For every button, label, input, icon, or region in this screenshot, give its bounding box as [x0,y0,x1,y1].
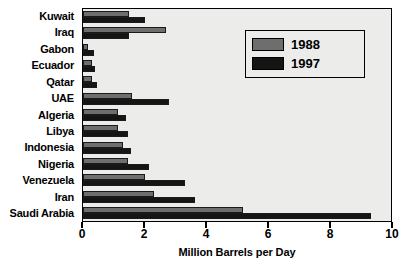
category-label: Gabon [0,41,78,57]
category-label: Venezuela [0,173,78,189]
category-label: Iran [0,189,78,205]
category-label: Indonesia [0,140,78,156]
category-label: Nigeria [0,156,78,172]
bar-1997 [83,99,169,105]
bar-group [83,123,391,139]
chart-legend: 1988 1997 [245,30,365,78]
category-label: Kuwait [0,8,78,24]
category-axis: KuwaitIraqGabonEcuadorQatarUAEAlgeriaLib… [0,8,78,222]
bar-1997 [83,66,95,72]
x-tick-label: 6 [265,228,272,240]
bar-1997 [83,164,149,170]
legend-label-1997: 1997 [291,57,320,70]
x-tick-label: 2 [141,228,148,240]
legend-item-1997: 1997 [252,57,358,70]
bar-1997 [83,50,94,56]
bar-group [83,140,391,156]
x-tick-label: 10 [385,228,398,240]
x-tick-label: 4 [203,228,210,240]
bar-group [83,205,391,221]
x-axis-title: Million Barrels per Day [82,246,392,258]
category-label: Iraq [0,24,78,40]
bar-group [83,9,391,25]
category-label: UAE [0,90,78,106]
bar-1997 [83,148,131,154]
bar-1997 [83,197,195,203]
bar-1997 [83,82,97,88]
bar-group [83,156,391,172]
category-label: Qatar [0,74,78,90]
category-label: Ecuador [0,57,78,73]
x-tick-label: 0 [79,228,86,240]
bar-1997 [83,131,128,137]
bar-1997 [83,213,371,219]
legend-item-1988: 1988 [252,38,358,51]
bar-1997 [83,115,126,121]
category-label: Saudi Arabia [0,206,78,222]
legend-label-1988: 1988 [291,38,320,51]
bar-group [83,172,391,188]
x-axis-tick-labels: 0246810 [82,228,392,244]
x-tick-label: 8 [327,228,334,240]
bar-group [83,188,391,204]
bar-1997 [83,180,185,186]
category-label: Libya [0,123,78,139]
category-label: Algeria [0,107,78,123]
bar-chart: KuwaitIraqGabonEcuadorQatarUAEAlgeriaLib… [0,0,407,273]
bar-1997 [83,17,145,23]
legend-swatch-1997 [252,57,284,70]
bar-group [83,91,391,107]
legend-swatch-1988 [252,38,284,51]
bar-group [83,107,391,123]
bar-1997 [83,33,129,39]
